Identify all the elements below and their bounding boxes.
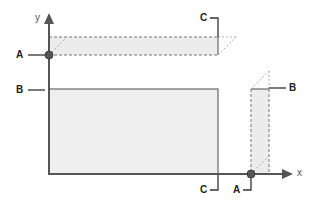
label-a-bottom: A — [233, 185, 240, 195]
label-b-left: B — [16, 85, 23, 95]
label-b-right: B — [289, 83, 296, 93]
point-a-y-axis — [45, 51, 53, 59]
y-axis-arrow-icon — [44, 13, 54, 24]
point-a-x-axis — [247, 170, 255, 178]
horizontal-strip — [49, 37, 236, 55]
x-axis-arrow-icon — [282, 169, 293, 179]
y-axis-label: y — [35, 13, 40, 23]
label-c-bottom: C — [200, 185, 207, 195]
vertical-strip — [251, 71, 269, 174]
large-rectangle — [49, 89, 218, 174]
x-axis-label: x — [297, 168, 302, 178]
label-a-left: A — [16, 50, 23, 60]
label-c-top: C — [200, 13, 207, 23]
diagram-canvas: y x A B C B C A — [0, 0, 311, 206]
